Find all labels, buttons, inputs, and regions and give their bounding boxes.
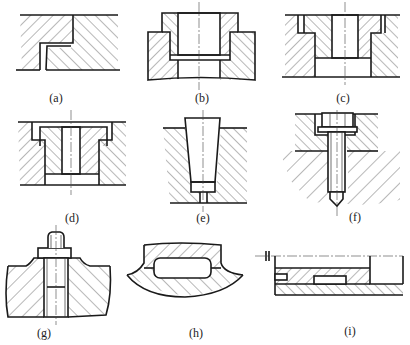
caption-h: (h) bbox=[176, 326, 216, 341]
panel-d: (d) bbox=[0, 110, 140, 225]
figure: (a) (b) bbox=[0, 0, 410, 345]
caption-b: (b) bbox=[182, 91, 222, 106]
panel-c: (c) bbox=[270, 0, 410, 110]
panel-i: (i) bbox=[255, 225, 410, 345]
caption-i: (i) bbox=[330, 324, 370, 339]
tapered-pin-drawing bbox=[135, 110, 275, 225]
caption-a: (a) bbox=[36, 91, 76, 106]
panel-b: (b) bbox=[140, 0, 270, 110]
panel-e: (e) bbox=[135, 110, 275, 225]
caption-e: (e) bbox=[183, 211, 223, 226]
caption-g: (g) bbox=[24, 326, 64, 341]
panel-g: (g) bbox=[0, 225, 120, 345]
panel-f: (f) bbox=[270, 110, 410, 225]
caption-d: (d) bbox=[52, 211, 92, 226]
headed-bushing-drawing bbox=[0, 110, 140, 225]
panel-h: (h) bbox=[120, 225, 260, 345]
panel-a: (a) bbox=[0, 0, 140, 110]
caption-f: (f) bbox=[335, 210, 375, 225]
cap-screw-drawing bbox=[270, 110, 410, 225]
caption-c: (c) bbox=[323, 91, 363, 106]
